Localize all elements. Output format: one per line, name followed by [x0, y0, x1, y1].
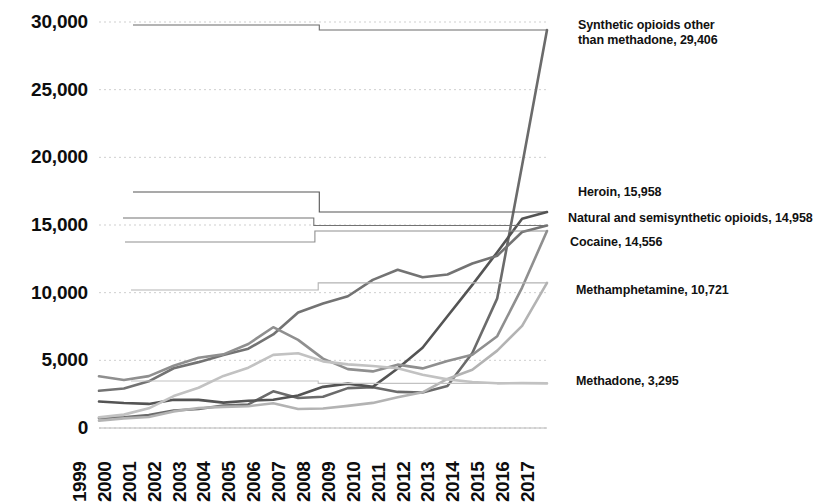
x-axis-tick-label: 2005	[218, 462, 240, 502]
y-axis-tick-label: 10,000	[31, 282, 88, 304]
label-leader-line	[125, 231, 547, 242]
series-line	[99, 226, 547, 391]
series-label-heroin: Heroin, 15,958	[578, 185, 661, 200]
x-axis-tick-label: 2003	[169, 462, 191, 502]
overdose-deaths-line-chart: 05,00010,00015,00020,00025,00030,000 199…	[0, 0, 836, 502]
x-axis-tick-label: 2007	[268, 462, 290, 502]
y-axis-tick-label: 15,000	[31, 214, 88, 236]
y-axis-tick-label: 30,000	[31, 11, 88, 33]
x-axis: 1999200020012002200320042005200620072008…	[99, 430, 559, 502]
series-label-methamphetamine: Methamphetamine, 10,721	[576, 283, 729, 298]
x-axis-tick-label: 2010	[343, 462, 365, 502]
x-axis-tick-label: 2006	[243, 462, 265, 502]
y-axis-tick-label: 5,000	[41, 349, 88, 371]
x-axis-tick-label: 2012	[393, 462, 415, 502]
x-axis-tick-label: 2009	[318, 462, 340, 502]
series-label-natural-semisynthetic-opioids: Natural and semisynthetic opioids, 14,95…	[568, 211, 813, 226]
x-axis-tick-label: 2004	[193, 462, 215, 502]
series-lines	[99, 22, 547, 428]
series-label-methadone: Methadone, 3,295	[576, 374, 679, 389]
x-axis-tick-label: 2013	[417, 462, 439, 502]
y-axis-tick-label: 20,000	[31, 146, 88, 168]
label-leader-line	[123, 218, 547, 226]
series-label-cocaine: Cocaine, 14,556	[570, 235, 662, 250]
x-axis-tick-label: 2017	[517, 462, 539, 502]
x-axis-tick-label: 1999	[69, 462, 91, 502]
x-axis-tick-label: 2008	[293, 462, 315, 502]
x-axis-tick-label: 2002	[144, 462, 166, 502]
series-line	[99, 212, 547, 404]
plot-area	[99, 22, 547, 428]
x-axis-tick-label: 2015	[467, 462, 489, 502]
series-line	[99, 231, 547, 380]
series-label-synthetic-opioids: Synthetic opioids other than methadone, …	[578, 18, 718, 48]
x-axis-tick-label: 2001	[119, 462, 141, 502]
x-axis-tick-label: 2016	[492, 462, 514, 502]
label-leader-line	[133, 25, 547, 30]
x-axis-tick-label: 2000	[94, 462, 116, 502]
y-axis: 05,00010,00015,00020,00025,00030,000	[0, 0, 88, 502]
x-axis-tick-label: 2011	[368, 463, 390, 502]
y-axis-tick-label: 25,000	[31, 79, 88, 101]
x-axis-tick-label: 2014	[442, 462, 464, 502]
label-leader-line	[131, 283, 547, 290]
label-leader-line	[133, 192, 547, 212]
y-axis-tick-label: 0	[78, 417, 88, 439]
